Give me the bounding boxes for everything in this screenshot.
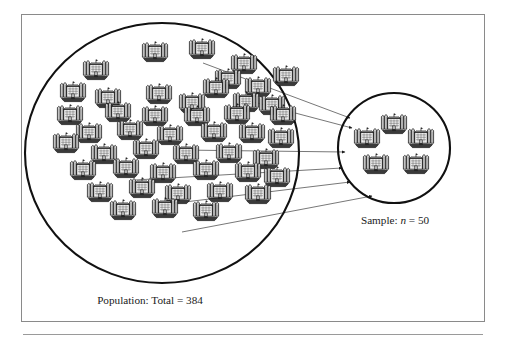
building-icon [152,198,177,218]
building-icon [363,154,388,174]
building-icon [216,143,241,163]
building-icon [105,102,130,122]
building-icon [193,160,218,180]
building-icon [408,128,433,148]
building-icon [133,139,158,159]
building-icon [157,125,182,145]
building-icon [270,105,295,125]
population-caption: Population: Total = 384 [0,294,300,306]
building-icon [245,184,270,204]
building-icon [60,82,85,102]
building-icon [91,144,116,164]
sample-caption: Sample: n = 50 [330,214,460,226]
sample-caption-equals: = [406,214,418,226]
building-icon [193,201,218,221]
figure-stage: Population: Total = 384 Sample: n = 50 [0,0,506,342]
building-icon [239,123,264,143]
building-icon [224,104,249,124]
building-icon [87,182,112,202]
building-icon [83,60,108,80]
population-total-value: 384 [186,294,203,306]
building-icon [273,66,298,86]
sample-circle [338,93,450,203]
building-icon [146,84,171,104]
building-icon [150,163,175,183]
building-icon [203,78,228,98]
building-icon [76,123,101,143]
building-icon [70,160,95,180]
building-icon [142,42,167,62]
building-icon [173,144,198,164]
building-icon [381,114,406,134]
building-icon [403,154,428,174]
building-icon [268,128,293,148]
building-icon [354,128,379,148]
building-icon [201,122,226,142]
sample-caption-prefix: Sample: [361,214,400,226]
building-icon [117,120,142,140]
building-icon [129,178,154,198]
building-icon [189,39,214,59]
building-icon [235,162,260,182]
building-icon [57,105,82,125]
population-caption-prefix: Population: Total = [97,294,186,306]
building-icon [264,167,289,187]
building-icon [53,133,78,153]
building-icon [142,106,167,126]
sample-size-value: 50 [418,214,429,226]
building-icon [113,158,138,178]
building-icon [207,182,232,202]
population-sample-diagram [0,0,506,342]
building-icon [110,200,135,220]
